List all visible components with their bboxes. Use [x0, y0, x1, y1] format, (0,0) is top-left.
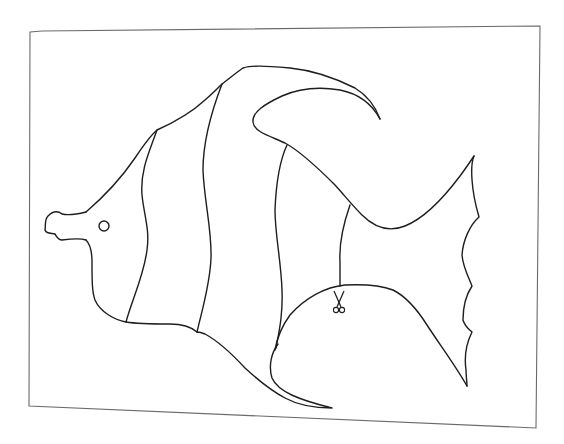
mouth-outline [45, 212, 86, 240]
scissors-icon [331, 290, 347, 316]
fish-drawing [0, 0, 564, 444]
belly-outline [86, 240, 197, 332]
eye [99, 221, 109, 231]
anal-fin [275, 285, 467, 386]
page-frame [29, 26, 540, 428]
upper-back-outline [86, 66, 380, 212]
pelvic-fin [197, 332, 332, 408]
coloring-page [0, 0, 564, 444]
stripe-3 [275, 145, 287, 348]
tail-fin-edge [462, 156, 479, 386]
dorsal-fin-inner [253, 88, 474, 228]
stripe-4 [340, 205, 350, 286]
stripe-2 [197, 84, 222, 332]
stripe-1 [126, 130, 157, 322]
